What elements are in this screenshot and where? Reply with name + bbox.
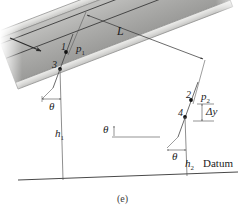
point-label-2: 2 [186,90,191,100]
theta-left-leg [42,88,53,99]
delta-y-label: Δy [206,106,217,117]
pressure-2-subscript: 2 [207,97,210,104]
height-label-h1: h1 [55,128,64,142]
point-label-3: 3 [52,60,57,70]
theta-middle-label: θ [103,124,108,135]
length-label: L [117,25,124,37]
datum-line [18,172,238,180]
point-label-1: 1 [61,42,66,52]
height-label-h2: h2 [185,158,194,172]
theta-left-label: θ [49,101,54,112]
pressure-label-1: p1 [76,43,85,57]
pressure-1-subscript: 1 [82,49,85,56]
pressure-label-2: p2 [201,91,210,105]
theta-right-leg [167,137,178,148]
pipe-assembly [0,0,233,89]
theta-right-label: θ [172,151,177,162]
point-label-4: 4 [178,108,183,118]
datum-label: Datum [203,158,233,169]
figure-caption: (e) [0,193,245,204]
h2-subscript: 2 [191,164,194,171]
pipe-interior [0,0,230,83]
figure-inclined-pipe-diagram: L 1 p1 3 2 p2 4 θ θ θ h1 h2 Δy Datum (e) [0,0,245,212]
height-line-h1 [60,69,63,180]
h1-subscript: 1 [61,134,64,141]
